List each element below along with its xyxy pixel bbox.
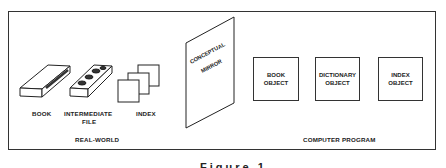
- real-world-group-label: REAL-WORLD: [75, 136, 119, 144]
- index-object-label: INDEX OBJECT: [388, 71, 412, 87]
- conceptual-mirror-shape: [186, 17, 234, 128]
- index-label: INDEX: [136, 110, 156, 118]
- dictionary-object-label: DICTIONARY OBJECT: [319, 71, 356, 87]
- intermediate-file-label-line1: INTERMEDIATE: [64, 110, 112, 118]
- intermediate-file-label-line2: FILE: [82, 118, 96, 126]
- file-box-icon: [70, 65, 112, 97]
- book-label: BOOK: [32, 110, 51, 118]
- index-object-box: INDEX OBJECT: [378, 57, 423, 101]
- book-icon: [20, 65, 70, 97]
- book-object-box: BOOK OBJECT: [253, 57, 299, 101]
- book-object-label: BOOK OBJECT: [264, 71, 288, 87]
- dictionary-object-box: DICTIONARY OBJECT: [315, 57, 360, 101]
- figure-caption: Figure 1: [200, 161, 267, 168]
- index-cards-icon: [118, 65, 159, 102]
- computer-program-group-label: COMPUTER PROGRAM: [303, 136, 376, 144]
